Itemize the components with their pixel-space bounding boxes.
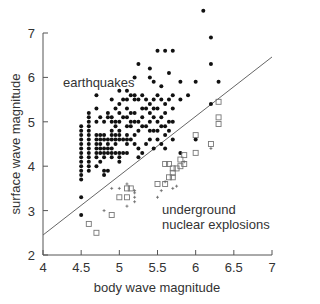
explosion-square-point xyxy=(208,142,213,147)
earthquake-point xyxy=(79,138,83,142)
x-tick-label: 7 xyxy=(268,260,275,275)
earthquake-point xyxy=(94,138,98,142)
earthquake-point xyxy=(110,155,114,159)
earthquake-point xyxy=(148,138,152,142)
earthquake-point xyxy=(117,129,121,133)
earthquake-point xyxy=(106,111,110,115)
earthquake-point xyxy=(87,115,91,119)
explosion-cross-point xyxy=(118,187,121,190)
earthquake-point xyxy=(129,138,133,142)
earthquake-point xyxy=(110,115,114,119)
earthquake-point xyxy=(79,164,83,168)
earthquake-point xyxy=(114,124,118,128)
earthquake-point xyxy=(148,67,152,71)
earthquake-point xyxy=(117,133,121,137)
earthquake-point xyxy=(106,151,110,155)
earthquake-point xyxy=(171,138,175,142)
earthquake-point xyxy=(94,106,98,110)
earthquake-point xyxy=(159,98,163,102)
earthquake-point xyxy=(163,146,167,150)
earthquake-point xyxy=(136,62,140,66)
earthquake-point xyxy=(94,146,98,150)
earthquake-point xyxy=(156,93,160,97)
earthquake-point xyxy=(133,98,137,102)
earthquake-point xyxy=(148,111,152,115)
explosion-cross-point xyxy=(125,205,128,208)
axes: 44.555.566.57234567 xyxy=(28,26,276,275)
earthquake-point xyxy=(125,115,129,119)
earthquake-point xyxy=(98,160,102,164)
earthquake-point xyxy=(167,120,171,124)
earthquake-point xyxy=(102,169,106,173)
earthquake-point xyxy=(94,155,98,159)
explosion-cross-point xyxy=(133,196,136,199)
earthquake-point xyxy=(121,98,125,102)
earthquake-point xyxy=(125,151,129,155)
earthquake-point xyxy=(114,142,118,146)
earthquake-point xyxy=(110,120,114,124)
earthquake-point xyxy=(94,120,98,124)
earthquake-point xyxy=(159,84,163,88)
earthquake-point xyxy=(98,115,102,119)
earthquake-point xyxy=(110,129,114,133)
earthquake-point xyxy=(102,146,106,150)
earthquake-point xyxy=(125,106,129,110)
explosion-square-point xyxy=(94,230,99,235)
earthquake-point xyxy=(79,160,83,164)
earthquake-point xyxy=(121,151,125,155)
explosion-square-point xyxy=(124,195,129,200)
earthquake-point xyxy=(106,138,110,142)
earthquake-point xyxy=(129,124,133,128)
earthquake-point xyxy=(171,93,175,97)
earthquake-point xyxy=(117,120,121,124)
earthquake-point xyxy=(117,138,121,142)
x-tick-label: 6.5 xyxy=(225,260,243,275)
earthquake-point xyxy=(117,155,121,159)
earthquake-point xyxy=(133,133,137,137)
earthquake-point xyxy=(152,80,156,84)
earthquake-point xyxy=(163,49,167,53)
earthquake-point xyxy=(117,160,121,164)
earthquake-point xyxy=(114,120,118,124)
earthquake-point xyxy=(156,49,160,53)
earthquake-point xyxy=(79,133,83,137)
earthquake-point xyxy=(144,142,148,146)
explosion-cross-point xyxy=(171,187,174,190)
earthquake-point xyxy=(79,155,83,159)
earthquake-point xyxy=(98,151,102,155)
earthquake-point xyxy=(98,133,102,137)
x-tick-label: 5.5 xyxy=(148,260,166,275)
earthquake-point xyxy=(152,115,156,119)
earthquake-point xyxy=(79,213,83,217)
earthquake-point xyxy=(136,98,140,102)
explosion-square-point xyxy=(193,150,198,155)
earthquake-point xyxy=(163,111,167,115)
earthquake-point xyxy=(102,151,106,155)
earthquake-point xyxy=(94,93,98,97)
earthquake-point xyxy=(167,71,171,75)
earthquake-point xyxy=(110,98,114,102)
explosion-cross-point xyxy=(209,147,212,150)
earthquake-point xyxy=(148,120,152,124)
earthquake-point xyxy=(94,133,98,137)
earthquake-point xyxy=(98,146,102,150)
explosion-cross-point xyxy=(110,187,113,190)
y-tick-label: 7 xyxy=(28,26,35,41)
earthquake-point xyxy=(178,98,182,102)
explosion-cross-point xyxy=(164,180,167,183)
earthquake-point xyxy=(140,106,144,110)
earthquake-point xyxy=(186,93,190,97)
earthquake-point xyxy=(94,164,98,168)
annotation-nuclear-explosions: nuclear explosions xyxy=(162,217,270,232)
earthquake-point xyxy=(87,146,91,150)
earthquake-point xyxy=(178,80,182,84)
earthquake-point xyxy=(140,115,144,119)
y-tick-label: 3 xyxy=(28,204,35,219)
earthquake-point xyxy=(125,124,129,128)
earthquake-point xyxy=(102,120,106,124)
earthquake-point xyxy=(79,178,83,182)
explosion-square-point xyxy=(117,195,122,200)
earthquake-point xyxy=(87,111,91,115)
explosion-cross-point xyxy=(160,189,163,192)
earthquake-point xyxy=(102,155,106,159)
